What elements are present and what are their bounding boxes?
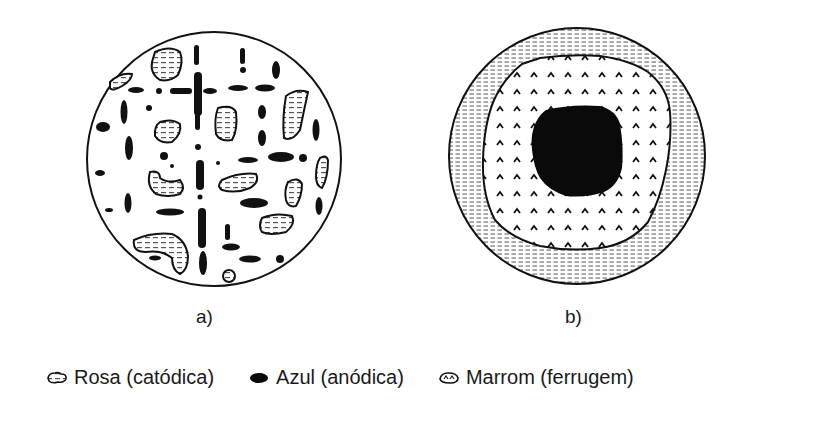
legend-label-rust: Marrom (ferrugem) (466, 366, 634, 389)
panel-b-diagram (449, 28, 705, 284)
brown-chevron-blob-icon (438, 371, 460, 385)
panel-b-label: b) (565, 306, 582, 328)
panel-a-diagram (87, 32, 341, 286)
legend-item-anodic: Azul (anódica) (248, 366, 404, 389)
legend-label-anodic: Azul (anódica) (276, 366, 404, 389)
pink-hatched-blob-icon (46, 371, 68, 385)
panel-b-anodic-center (532, 106, 623, 197)
panel-a-label: a) (196, 306, 213, 328)
blue-solid-blob-icon (248, 371, 270, 385)
legend: Rosa (catódica) Azul (anódica) Marrom (f… (46, 366, 668, 389)
legend-label-cathodic: Rosa (catódica) (74, 366, 214, 389)
legend-item-cathodic: Rosa (catódica) (46, 366, 214, 389)
legend-item-rust: Marrom (ferrugem) (438, 366, 634, 389)
